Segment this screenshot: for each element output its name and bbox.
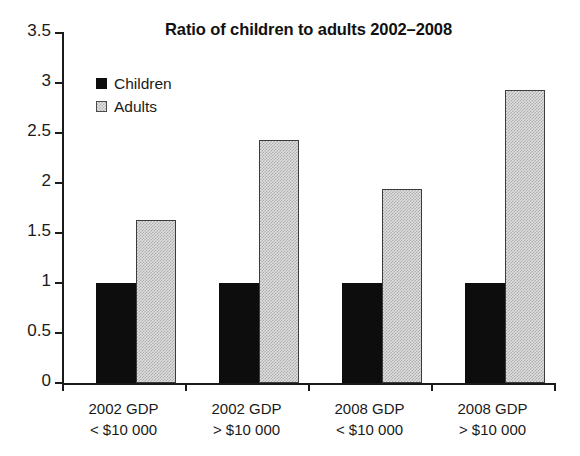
x-axis-category-label-line2: < $10 000 <box>308 419 431 440</box>
bar-chart: Ratio of children to adults 2002–2008 0 … <box>0 0 580 456</box>
legend-item-adults: Adults <box>96 95 172 118</box>
x-axis-tick <box>431 383 433 391</box>
x-axis-category-label-line2: > $10 000 <box>431 419 554 440</box>
x-axis-category-label-line2: < $10 000 <box>62 419 185 440</box>
x-axis-category-label: 2002 GDP > $10 000 <box>185 398 308 440</box>
bar-children-2002-lt <box>96 283 136 383</box>
y-axis-tick-label: 3 <box>42 71 51 91</box>
y-axis-tick: 0.5 <box>55 332 62 334</box>
y-axis-tick-label: 0 <box>42 371 51 391</box>
bar-children-2008-gt <box>465 283 505 383</box>
x-axis-category-label-line1: 2008 GDP <box>457 400 527 417</box>
bar-children-2008-lt <box>342 283 382 383</box>
x-axis-tick <box>308 383 310 391</box>
x-axis-category-label-line1: 2002 GDP <box>88 400 158 417</box>
x-axis-category-label-line2: > $10 000 <box>185 419 308 440</box>
bar-adults-2002-lt <box>136 220 176 383</box>
y-axis-tick: 1 <box>55 282 62 284</box>
x-axis-category-label-line1: 2002 GDP <box>211 400 281 417</box>
y-axis-tick: 2.5 <box>55 132 62 134</box>
bar-children-2002-gt <box>219 283 259 383</box>
bar-adults-2008-lt <box>382 189 422 383</box>
y-axis-line <box>62 32 64 384</box>
x-axis-category-label-line1: 2008 GDP <box>334 400 404 417</box>
x-axis-tick <box>554 383 556 391</box>
y-axis-tick: 3.5 <box>55 32 62 34</box>
y-axis-tick: 2 <box>55 182 62 184</box>
y-axis-tick: 0 <box>55 382 62 384</box>
y-axis-tick-label: 2 <box>42 171 51 191</box>
x-axis-category-label: 2008 GDP > $10 000 <box>431 398 554 440</box>
bar-adults-2002-gt <box>259 140 299 383</box>
y-axis-tick: 1.5 <box>55 232 62 234</box>
chart-legend: Children Adults <box>96 72 172 118</box>
x-axis-tick <box>185 383 187 391</box>
legend-label-children: Children <box>114 75 172 93</box>
y-axis-tick: 3 <box>55 82 62 84</box>
legend-label-adults: Adults <box>114 98 157 116</box>
y-axis-tick-label: 3.5 <box>27 21 51 41</box>
y-axis-tick-label: 0.5 <box>27 321 51 341</box>
legend-swatch-adults-icon <box>96 101 107 112</box>
legend-swatch-children-icon <box>96 78 107 89</box>
x-axis-tick <box>62 383 64 391</box>
y-axis-tick-label: 1 <box>42 271 51 291</box>
legend-item-children: Children <box>96 72 172 95</box>
y-axis-tick-label: 1.5 <box>27 221 51 241</box>
y-axis-tick-label: 2.5 <box>27 121 51 141</box>
x-axis-category-label: 2008 GDP < $10 000 <box>308 398 431 440</box>
bar-adults-2008-gt <box>505 90 545 383</box>
x-axis-category-label: 2002 GDP < $10 000 <box>62 398 185 440</box>
